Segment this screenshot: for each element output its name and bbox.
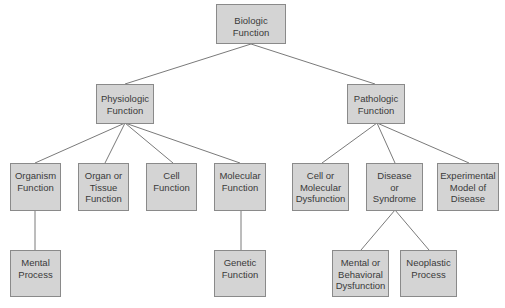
node-biologic-function: Biologic Function <box>216 4 286 44</box>
node-label: Physiologic Function <box>101 93 149 116</box>
node-organism-function: Organism Function <box>10 163 61 211</box>
node-label: Experimental Model of Disease <box>440 170 495 205</box>
node-molecular-function: Molecular Function <box>214 163 266 211</box>
edge-physiologic-organism <box>35 123 125 163</box>
node-disease-or-syndrome: Disease or Syndrome <box>366 163 423 211</box>
node-mental-process: Mental Process <box>10 250 61 297</box>
node-label: Pathologic Function <box>354 93 398 116</box>
node-label: Mental Process <box>18 257 52 280</box>
node-label: Cell Function <box>153 170 189 193</box>
edge-disease-neoplastic <box>395 210 429 250</box>
node-neoplastic-process: Neoplastic Process <box>400 250 457 297</box>
node-organ-tissue-function: Organ or Tissue Function <box>78 163 129 211</box>
node-label: Cell or Molecular Dysfunction <box>296 170 346 205</box>
edge-biologic-pathologic <box>251 44 375 84</box>
edge-biologic-physiologic <box>125 44 251 84</box>
edge-disease-mentalbeh <box>361 210 395 250</box>
node-cell-function: Cell Function <box>146 163 197 211</box>
node-experimental-model-of-disease: Experimental Model of Disease <box>437 163 499 211</box>
edge-pathologic-cellmol <box>322 123 377 163</box>
node-genetic-function: Genetic Function <box>214 250 266 297</box>
node-label: Organism Function <box>15 170 56 193</box>
node-cell-molecular-dysfunction: Cell or Molecular Dysfunction <box>292 163 349 211</box>
edge-pathologic-disease <box>377 123 395 163</box>
node-label: Disease or Syndrome <box>373 170 416 205</box>
node-label: Molecular Function <box>219 170 260 193</box>
node-label: Genetic Function <box>222 257 258 280</box>
node-physiologic-function: Physiologic Function <box>96 84 154 124</box>
edge-pathologic-experimental <box>377 123 469 163</box>
node-mental-behavioral-dysfunction: Mental or Behavioral Dysfunction <box>332 250 389 297</box>
node-pathologic-function: Pathologic Function <box>347 84 405 124</box>
node-label: Mental or Behavioral Dysfunction <box>336 257 386 292</box>
node-label: Organ or Tissue Function <box>85 170 123 205</box>
edge-physiologic-cell <box>125 123 173 163</box>
edge-physiologic-molecular <box>125 123 240 163</box>
node-label: Neoplastic Process <box>406 257 450 280</box>
node-label: Biologic Function <box>233 15 269 38</box>
edge-physiologic-organ <box>105 123 125 163</box>
